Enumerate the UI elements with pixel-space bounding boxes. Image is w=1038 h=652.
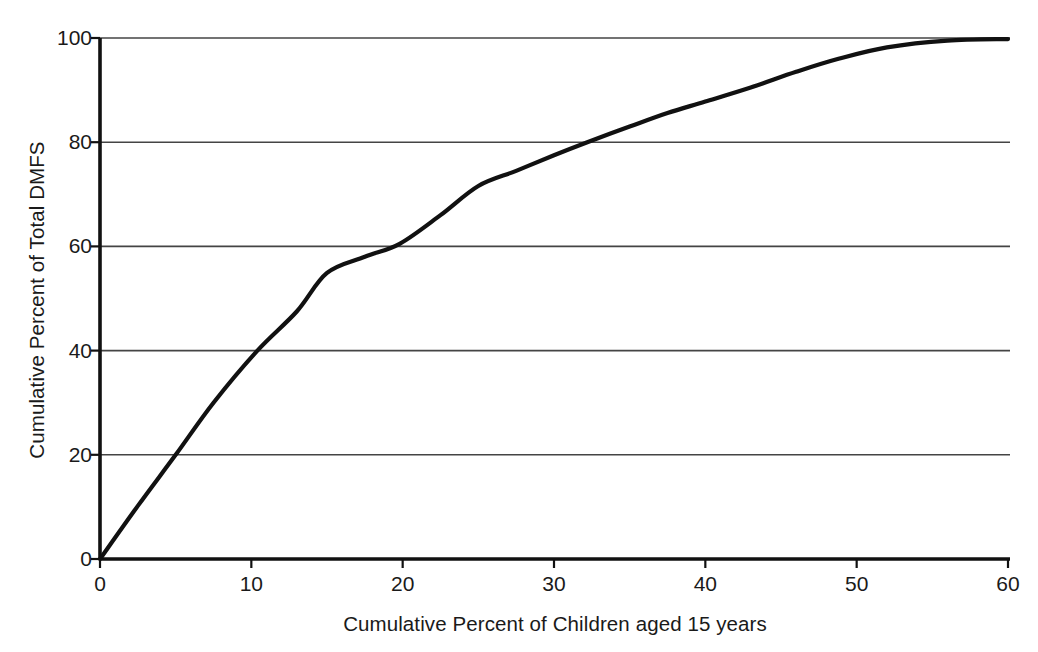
x-tick-label-40: 40	[665, 573, 745, 594]
x-tick-label-0: 0	[60, 573, 140, 594]
axis-lines	[99, 38, 1010, 559]
x-tick-label-50: 50	[817, 573, 897, 594]
gridlines	[100, 38, 1010, 455]
x-tick-label-60: 60	[968, 573, 1038, 594]
chart-figure: Cumulative Percent of Total DMFS 0204060…	[0, 0, 1038, 652]
x-tick-label-20: 20	[363, 573, 443, 594]
plot-area	[0, 0, 1038, 652]
x-tick-label-10: 10	[211, 573, 291, 594]
x-axis-title: Cumulative Percent of Children aged 15 y…	[100, 612, 1010, 636]
data-series-line	[100, 39, 1008, 559]
x-tick-label-30: 30	[514, 573, 594, 594]
axis-ticks	[91, 38, 1008, 568]
x-axis-tick-labels: 0102030405060	[0, 573, 1038, 607]
